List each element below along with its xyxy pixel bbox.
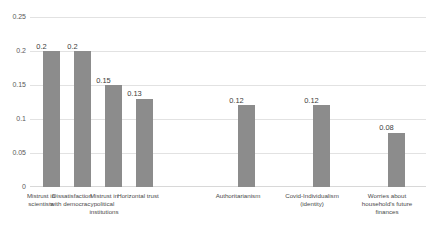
bar-value-label: 0.15 — [84, 77, 124, 85]
category-label-covid-individualism: Covid-Individualism (identity) — [285, 192, 339, 208]
bar-value-label: 0.2 — [53, 43, 93, 51]
bar-chart: 0.25 0.2 0.15 0.1 0.05 0 0.2 0.2 0.15 0.… — [0, 0, 430, 242]
bar-value-label: 0.12 — [217, 97, 257, 105]
bar-value-label: 0.13 — [115, 90, 155, 98]
bar-mistrust-in-scientists — [43, 51, 60, 187]
bar-worries-about-future-finances — [388, 133, 405, 187]
bar-horizontal-trust — [136, 99, 153, 187]
y-tick-label: 0.1 — [0, 115, 26, 122]
bar-authoritarianism — [238, 105, 255, 187]
bar-covid-individualism — [313, 105, 330, 187]
gridline-025 — [30, 17, 426, 18]
y-tick-label: 0 — [0, 183, 26, 190]
y-tick-label: 0.15 — [0, 81, 26, 88]
bar-value-label: 0.08 — [367, 124, 407, 132]
bar-value-label: 0.12 — [292, 97, 332, 105]
y-tick-label: 0.05 — [0, 149, 26, 156]
category-label-horizontal-trust: Horizontal trust — [113, 192, 163, 200]
category-label-worries-about-future-finances: Worries about household's future finance… — [358, 192, 416, 216]
bar-dissatisfaction-with-democracy — [74, 51, 91, 187]
category-label-authoritarianism: Authoritarianism — [208, 192, 268, 200]
bar-mistrust-in-political-institutions — [105, 85, 122, 187]
y-tick-label: 0.25 — [0, 13, 26, 20]
